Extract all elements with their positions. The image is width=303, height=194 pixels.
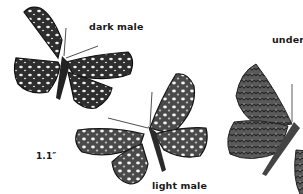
dark-male-label: dark male: [89, 21, 143, 32]
butterfly-illustrations: [0, 0, 303, 194]
light-male-label: light male: [152, 180, 207, 191]
underside-butterfly: [228, 64, 303, 194]
field-guide-plate: dark male unders light male 1.1″: [0, 0, 303, 194]
underside-label: unders: [272, 34, 303, 45]
wingspan-size-label: 1.1″: [36, 151, 56, 161]
